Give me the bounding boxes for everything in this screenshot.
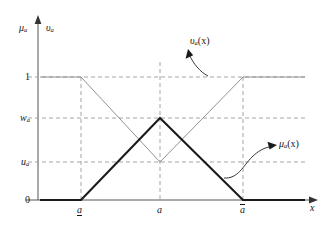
axis-group bbox=[26, 15, 318, 203]
vertical-gridlines bbox=[81, 62, 243, 200]
y-tick-label-zero: 0 bbox=[25, 195, 30, 205]
y-axis-membership-label: μa bbox=[19, 23, 27, 34]
membership-callout-label: μa(x) bbox=[279, 139, 299, 150]
membership-curve bbox=[40, 118, 305, 200]
y-tick-label-one: 1 bbox=[25, 72, 30, 82]
x-tick-label-a-lower: a bbox=[77, 205, 82, 215]
y-axis-arrowhead bbox=[35, 15, 42, 24]
nonmembership-curve bbox=[40, 77, 305, 162]
a-underbar-glyph: a bbox=[77, 205, 82, 215]
x-tick-label-a-core: a bbox=[157, 205, 162, 215]
nonmembership-callout-arrow bbox=[186, 49, 208, 76]
y-tick-label-ua: ua bbox=[21, 157, 29, 168]
figure-canvas: μa υa x 1 wa ua 0 a a a υa(x) μa(x) bbox=[0, 0, 329, 234]
plot-area bbox=[0, 0, 329, 234]
x-axis-label: x bbox=[310, 203, 314, 213]
nonmembership-callout-label: υa(x) bbox=[190, 36, 210, 47]
x-tick-label-a-upper: a bbox=[240, 205, 245, 215]
y-axis-nonmembership-label: υa bbox=[46, 23, 54, 34]
a-overbar-glyph: a bbox=[240, 205, 245, 215]
membership-callout-arrow bbox=[224, 142, 277, 178]
y-tick-label-wa: wa bbox=[20, 113, 30, 124]
